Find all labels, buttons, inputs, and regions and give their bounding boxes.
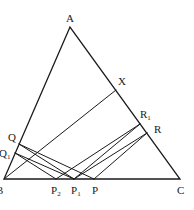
point-label-b: B — [0, 184, 3, 196]
point-label-p1: P1 — [71, 184, 81, 198]
labels-group: ABCXR1RQQ1P2P1P — [0, 12, 184, 198]
point-label-a: A — [66, 12, 74, 24]
point-label-q1: Q1 — [0, 147, 11, 161]
triangle-diagram: ABCXR1RQQ1P2P1P — [0, 0, 194, 210]
segment-q-p1 — [19, 144, 74, 179]
point-label-x: X — [118, 75, 126, 87]
segment-b-x — [4, 90, 116, 179]
segment-p1-r1 — [74, 124, 140, 179]
point-label-p2: P2 — [51, 184, 61, 198]
point-label-q: Q — [8, 131, 16, 143]
triangle-abc — [4, 27, 180, 179]
segment-p1-r — [74, 133, 147, 179]
point-label-r1: R1 — [140, 108, 151, 122]
point-label-c: C — [177, 184, 184, 196]
point-label-r: R — [154, 123, 162, 135]
segment-p2-r1 — [56, 124, 140, 179]
point-label-p: P — [92, 184, 98, 196]
